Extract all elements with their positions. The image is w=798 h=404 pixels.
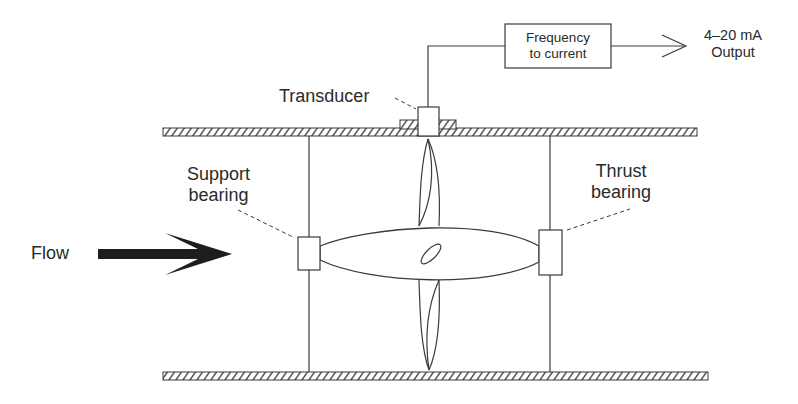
- turbine-flowmeter-diagram: [0, 0, 798, 404]
- converter-line-1: Frequency: [505, 30, 611, 46]
- support-bearing-line-2: bearing: [187, 185, 250, 206]
- converter-label: Frequency to current: [505, 30, 611, 62]
- output-label: 4–20 mA Output: [694, 27, 772, 61]
- flow-label: Flow: [31, 243, 69, 264]
- thrust-bearing: [539, 230, 562, 275]
- pipe-wall-bottom: [163, 372, 708, 380]
- flow-arrow-icon: [98, 233, 232, 275]
- rotor-hub: [320, 228, 539, 280]
- transducer-label: Transducer: [279, 86, 369, 107]
- support-bearing-line-1: Support: [187, 164, 250, 185]
- thrust-bearing-label: Thrust bearing: [591, 161, 651, 203]
- support-bearing-label: Support bearing: [187, 164, 250, 206]
- thrust-bearing-line-1: Thrust: [591, 161, 651, 182]
- thrust-bearing-line-2: bearing: [591, 182, 651, 203]
- output-line-1: 4–20 mA: [694, 27, 772, 44]
- output-line-2: Output: [694, 44, 772, 61]
- converter-line-2: to current: [505, 46, 611, 62]
- support-bearing: [298, 237, 320, 270]
